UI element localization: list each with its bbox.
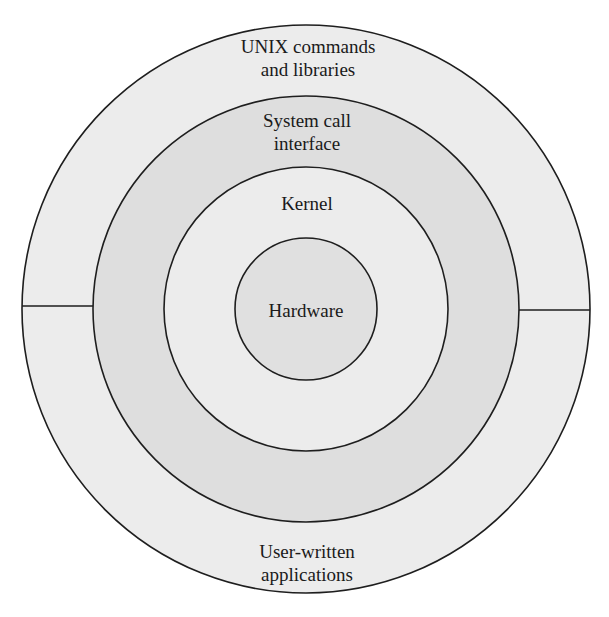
label-system-call: System call [263,110,351,131]
label-hardware: Hardware [269,300,344,321]
unix-layers-diagram: UNIX commands and libraries System call … [0,0,609,617]
label-applications: applications [261,564,353,585]
label-unix-commands: UNIX commands [241,36,376,57]
label-kernel: Kernel [281,193,333,214]
label-and-libraries: and libraries [261,59,355,80]
label-user-written: User-written [259,541,355,562]
label-interface: interface [274,133,340,154]
